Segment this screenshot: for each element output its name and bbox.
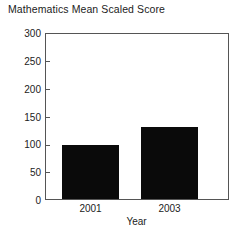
x-tick-label-2001: 2001: [62, 203, 119, 215]
x-tick-label-2003: 2003: [141, 203, 198, 215]
y-tick-label-250: 250: [1, 57, 41, 67]
y-tick-mark-150: [45, 117, 50, 118]
y-tick-label-300: 300: [1, 29, 41, 39]
y-tick-label-100: 100: [1, 140, 41, 150]
y-tick-mark-200: [45, 89, 50, 90]
bar-chart: Mathematics Mean Scaled Score 300 250 20…: [0, 0, 241, 232]
y-axis: 300 250 200 150 100 50 0: [0, 0, 41, 232]
y-tick-label-200: 200: [1, 85, 41, 95]
y-tick-label-0: 0: [1, 196, 41, 206]
y-tick-mark-50: [45, 172, 50, 173]
y-tick-mark-250: [45, 61, 50, 62]
y-tick-mark-100: [45, 145, 50, 146]
bar-2003: [141, 127, 198, 199]
y-tick-label-50: 50: [1, 168, 41, 178]
x-axis-label: Year: [0, 216, 241, 228]
bar-2001: [62, 145, 119, 199]
y-tick-label-150: 150: [1, 113, 41, 123]
x-axis-label-text: Year: [126, 216, 146, 227]
